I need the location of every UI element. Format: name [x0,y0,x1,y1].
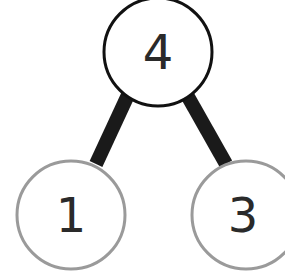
connector-left [96,95,128,164]
connector-right [187,95,226,164]
part-label-left: 1 [56,187,87,243]
whole-node: 4 [104,0,212,106]
part-node-right: 3 [192,161,285,269]
part-node-left: 1 [17,161,125,269]
whole-label: 4 [143,24,174,80]
number-bond-diagram: 4 1 3 [0,0,285,278]
part-label-right: 3 [228,187,259,243]
